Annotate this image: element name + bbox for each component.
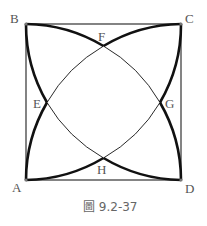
square xyxy=(26,24,181,180)
label-h: H xyxy=(97,162,106,177)
label-c: C xyxy=(185,11,194,26)
label-d: D xyxy=(185,181,194,196)
arc-center-c xyxy=(26,24,181,180)
label-b: B xyxy=(10,11,19,26)
label-a: A xyxy=(12,180,22,195)
arc-center-d xyxy=(26,24,181,180)
geometry-figure: B C A D F E G H 圖 9.2-37 xyxy=(0,0,207,226)
figure-caption: 圖 9.2-37 xyxy=(83,200,138,214)
arc-center-a xyxy=(26,24,181,180)
arc-center-b xyxy=(26,24,181,180)
label-e: E xyxy=(33,96,41,111)
label-f: F xyxy=(98,29,105,44)
label-g: G xyxy=(165,96,174,111)
